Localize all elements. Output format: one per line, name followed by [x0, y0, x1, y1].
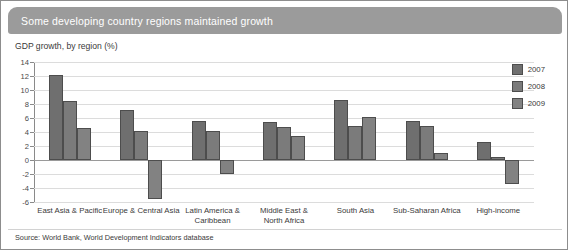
- bar-2008: [348, 126, 362, 160]
- bar-group: [177, 62, 248, 202]
- legend-item-2008[interactable]: 2008: [512, 81, 545, 92]
- bar-2008: [491, 157, 505, 160]
- bar-2007: [263, 122, 277, 161]
- bar-2009: [220, 160, 234, 174]
- bar-2008: [206, 131, 220, 160]
- y-axis-tick-label: 8: [5, 100, 29, 109]
- bar-2007: [334, 100, 348, 160]
- bar-2009: [362, 117, 376, 160]
- y-axis-tick-label: 12: [5, 72, 29, 81]
- x-axis-tick-label: High-income: [456, 206, 540, 216]
- legend-swatch-icon: [512, 64, 523, 75]
- bar-2009: [77, 128, 91, 160]
- y-axis-tick: [30, 202, 34, 203]
- y-axis-tick: [30, 146, 34, 147]
- y-axis-tick-label: 0: [5, 156, 29, 165]
- chart-title-bar: Some developing country regions maintain…: [8, 7, 562, 34]
- bar-2008: [420, 126, 434, 160]
- y-axis-tick: [30, 104, 34, 105]
- y-axis-tick: [30, 188, 34, 189]
- y-axis-tick: [30, 118, 34, 119]
- bar-2007: [192, 121, 206, 160]
- legend-item-2009[interactable]: 2009: [512, 98, 545, 109]
- y-axis-tick-label: 6: [5, 114, 29, 123]
- legend-label: 2007: [528, 65, 545, 74]
- bar-2009: [434, 153, 448, 160]
- y-axis-tick: [30, 174, 34, 175]
- bar-2008: [134, 131, 148, 160]
- x-axis-label-line: High-income: [456, 206, 540, 216]
- y-axis-tick: [30, 62, 34, 63]
- y-axis-tick-label: 2: [5, 142, 29, 151]
- source-note: Source: World Bank, World Development In…: [15, 233, 213, 242]
- y-axis-tick-label: -6: [5, 198, 29, 207]
- footer-divider: [8, 229, 562, 230]
- bar-group: [248, 62, 319, 202]
- y-axis-labels: 14121086420-2-4-6: [1, 62, 29, 202]
- plot-area: [34, 62, 534, 202]
- bar-2008: [277, 127, 291, 160]
- y-axis-tick-label: 14: [5, 58, 29, 67]
- chart-subtitle: GDP growth, by region (%): [15, 41, 118, 51]
- x-axis-label-line: North Africa: [242, 216, 326, 226]
- bar-2007: [477, 142, 491, 160]
- bar-group: [34, 62, 105, 202]
- chart-legend: 200720082009: [512, 64, 545, 109]
- legend-item-2007[interactable]: 2007: [512, 64, 545, 75]
- y-axis-tick: [30, 90, 34, 91]
- y-axis-tick-label: 4: [5, 128, 29, 137]
- bar-2007: [120, 110, 134, 160]
- bar-group: [320, 62, 391, 202]
- chart-figure: Some developing country regions maintain…: [0, 0, 568, 250]
- y-axis-tick-label: 10: [5, 86, 29, 95]
- legend-label: 2009: [528, 99, 545, 108]
- y-axis-tick: [30, 160, 34, 161]
- y-axis-tick-label: -2: [5, 170, 29, 179]
- y-axis-tick: [30, 76, 34, 77]
- legend-swatch-icon: [512, 98, 523, 109]
- legend-swatch-icon: [512, 81, 523, 92]
- bar-2009: [505, 160, 519, 184]
- bar-2008: [63, 101, 77, 161]
- bar-group: [105, 62, 176, 202]
- y-axis-tick-label: -4: [5, 184, 29, 193]
- gridline: [34, 202, 534, 203]
- bar-2007: [49, 75, 63, 160]
- page-title: Some developing country regions maintain…: [8, 15, 273, 27]
- bar-2009: [148, 160, 162, 199]
- legend-label: 2008: [528, 82, 545, 91]
- bar-group: [391, 62, 462, 202]
- y-axis-tick: [30, 132, 34, 133]
- bar-2009: [291, 136, 305, 161]
- bar-2007: [406, 121, 420, 160]
